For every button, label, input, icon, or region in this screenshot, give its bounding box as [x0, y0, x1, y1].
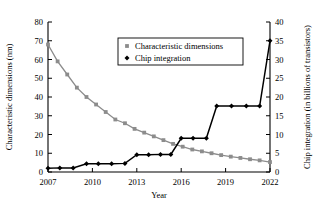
data-point-chip-integration — [191, 136, 196, 141]
data-point-characteristic-dimensions — [229, 155, 233, 159]
y-tick-label-left: 60 — [35, 55, 44, 65]
y-tick-label-right: 15 — [275, 111, 284, 121]
x-tick-label: 2007 — [40, 177, 57, 187]
x-tick-label: 2016 — [173, 177, 190, 187]
data-point-chip-integration — [214, 104, 219, 109]
y-tick-label-right: 10 — [275, 130, 284, 140]
data-point-characteristic-dimensions — [123, 121, 127, 125]
y-axis-title-left: Characteristic dimensions (nm) — [4, 43, 14, 150]
x-axis-title: Year — [151, 190, 167, 200]
x-tick-label: 2022 — [262, 177, 279, 187]
data-point-characteristic-dimensions — [46, 43, 50, 47]
data-point-characteristic-dimensions — [190, 148, 194, 152]
data-point-chip-integration — [268, 38, 273, 43]
y-tick-label-right: 5 — [275, 148, 279, 158]
data-point-characteristic-dimensions — [239, 156, 243, 160]
data-point-chip-integration — [71, 165, 76, 170]
data-point-chip-integration — [257, 104, 262, 109]
data-point-characteristic-dimensions — [142, 131, 146, 135]
y-tick-label-right: 35 — [275, 36, 284, 46]
data-point-characteristic-dimensions — [210, 151, 214, 155]
y-tick-label-left: 50 — [35, 73, 44, 83]
data-point-characteristic-dimensions — [258, 158, 262, 162]
y-tick-label-left: 30 — [35, 111, 44, 121]
legend-label-characteristic-dimensions: Characteristic dimensions — [135, 41, 223, 51]
x-tick-label: 2013 — [128, 177, 145, 187]
data-point-chip-integration — [109, 161, 114, 166]
data-point-characteristic-dimensions — [94, 103, 98, 107]
data-point-characteristic-dimensions — [171, 142, 175, 146]
data-point-characteristic-dimensions — [162, 138, 166, 142]
y-tick-label-right: 25 — [275, 73, 284, 83]
data-point-chip-integration — [229, 104, 234, 109]
y-tick-label-right: 20 — [275, 92, 284, 102]
data-point-characteristic-dimensions — [181, 145, 185, 149]
y-tick-label-left: 70 — [35, 36, 44, 46]
y-tick-label-left: 10 — [35, 148, 44, 158]
data-point-characteristic-dimensions — [104, 110, 108, 114]
y-tick-label-left: 0 — [39, 167, 43, 177]
chart-canvas: 0102030405060708005101520253035402007201… — [0, 0, 320, 216]
data-point-characteristic-dimensions — [248, 157, 252, 161]
y-tick-label-right: 0 — [275, 167, 279, 177]
x-tick-label: 2010 — [84, 177, 101, 187]
y-tick-label-left: 40 — [35, 92, 44, 102]
data-point-characteristic-dimensions — [152, 134, 156, 138]
data-point-characteristic-dimensions — [133, 127, 137, 131]
data-point-characteristic-dimensions — [65, 73, 69, 77]
data-point-chip-integration — [244, 104, 249, 109]
data-point-characteristic-dimensions — [75, 86, 79, 90]
y-axis-title-right: Chip integration (in billions of transis… — [302, 25, 312, 169]
y-tick-label-left: 20 — [35, 130, 44, 140]
data-point-characteristic-dimensions — [85, 95, 89, 99]
y-tick-label-right: 30 — [275, 55, 284, 65]
data-point-characteristic-dimensions — [219, 153, 223, 157]
data-point-chip-integration — [46, 166, 51, 171]
data-point-chip-integration — [84, 161, 89, 166]
data-point-chip-integration — [96, 161, 101, 166]
data-point-characteristic-dimensions — [56, 59, 60, 63]
legend-marker-square — [125, 44, 129, 48]
legend-label-chip-integration: Chip integration — [135, 53, 191, 63]
data-point-characteristic-dimensions — [268, 160, 272, 164]
data-point-chip-integration — [146, 152, 151, 157]
data-point-chip-integration — [57, 165, 62, 170]
y-tick-label-right: 40 — [275, 17, 284, 27]
data-point-characteristic-dimensions — [113, 118, 117, 122]
data-point-characteristic-dimensions — [200, 149, 204, 153]
data-point-chip-integration — [204, 136, 209, 141]
y-tick-label-left: 80 — [35, 17, 44, 27]
x-tick-label: 2019 — [217, 177, 234, 187]
figure-container: 0102030405060708005101520253035402007201… — [0, 0, 320, 216]
data-point-chip-integration — [158, 152, 163, 157]
